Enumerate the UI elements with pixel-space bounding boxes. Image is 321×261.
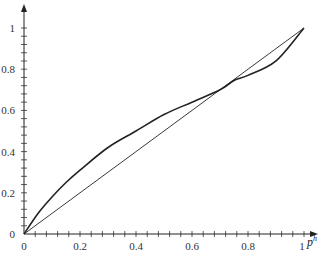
x-tick-labels: 00.20.40.60.81 bbox=[21, 240, 305, 252]
x-tick-label: 0 bbox=[21, 240, 27, 252]
y-tick-label: 0.2 bbox=[1, 187, 15, 199]
diagonal-line bbox=[24, 28, 304, 234]
y-tick-label: 0.6 bbox=[1, 104, 15, 116]
y-tick-label: 0.4 bbox=[1, 146, 15, 158]
y-tick-label: 0.8 bbox=[1, 63, 15, 75]
x-axis-label: ph bbox=[306, 234, 317, 249]
y-tick-label: 1 bbox=[10, 22, 16, 34]
y-tick-labels: 00.20.40.60.81 bbox=[1, 22, 15, 240]
x-tick-label: 0.2 bbox=[73, 240, 87, 252]
chart-canvas: 00.20.40.60.81 00.20.40.60.81 ph bbox=[0, 0, 321, 261]
series-group bbox=[24, 28, 304, 234]
x-tick-label: 1 bbox=[299, 240, 305, 252]
x-tick-label: 0.8 bbox=[241, 240, 255, 252]
x-tick-label: 0.4 bbox=[129, 240, 143, 252]
y-tick-label: 0 bbox=[10, 228, 16, 240]
x-tick-label: 0.6 bbox=[185, 240, 199, 252]
y-axis-arrow-icon bbox=[21, 4, 27, 12]
